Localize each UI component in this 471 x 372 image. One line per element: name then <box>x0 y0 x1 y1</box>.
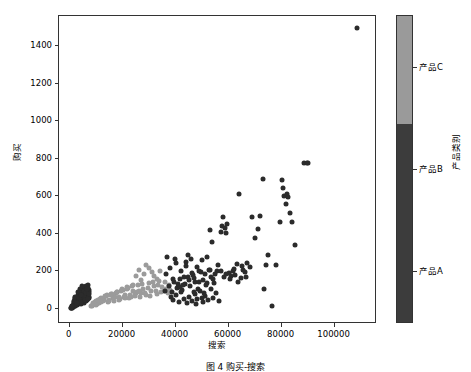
scatter-point <box>200 258 205 263</box>
colorbar-tick-label: 产品A <box>419 267 443 276</box>
x-tick-label: 80000 <box>251 330 311 339</box>
x-axis-label: 搜索 <box>58 341 376 350</box>
scatter-point <box>136 267 141 272</box>
scatter-point <box>192 275 197 280</box>
scatter-point <box>355 26 360 31</box>
scatter-point <box>238 276 243 281</box>
scatter-point <box>173 257 178 262</box>
y-tick-mark <box>55 83 59 84</box>
scatter-point <box>213 271 218 276</box>
scatter-point <box>247 265 252 270</box>
scatter-point <box>261 177 266 182</box>
scatter-point <box>243 274 248 279</box>
scatter-point <box>263 262 268 267</box>
scatter-point <box>166 283 171 288</box>
scatter-point <box>283 201 288 206</box>
scatter-point <box>199 296 204 301</box>
scatter-point <box>174 293 179 298</box>
y-tick-label: 600 <box>2 191 52 200</box>
scatter-point <box>86 296 91 301</box>
scatter-point <box>149 289 154 294</box>
scatter-point <box>225 222 230 227</box>
scatter-point <box>122 295 127 300</box>
y-tick-mark <box>55 308 59 309</box>
scatter-point <box>148 293 153 298</box>
scatter-point <box>219 268 224 273</box>
scatter-point <box>186 278 191 283</box>
scatter-point <box>74 301 79 306</box>
scatter-point <box>184 301 189 306</box>
colorbar-segment <box>397 16 412 124</box>
scatter-point <box>250 214 255 219</box>
scatter-point <box>204 254 209 259</box>
scatter-point <box>171 298 176 303</box>
scatter-point <box>253 235 258 240</box>
y-tick-label: 1200 <box>2 79 52 88</box>
y-tick-label: 400 <box>2 229 52 238</box>
x-tick-label: 60000 <box>198 330 258 339</box>
scatter-point <box>205 281 210 286</box>
scatter-point <box>227 277 232 282</box>
scatter-point <box>210 276 215 281</box>
scatter-point <box>306 160 311 165</box>
scatter-point <box>191 289 196 294</box>
scatter-point <box>234 262 239 267</box>
scatter-point <box>258 214 263 219</box>
colorbar-tick-label: 产品B <box>419 165 443 174</box>
y-tick-mark <box>55 195 59 196</box>
y-tick-label: 0 <box>2 304 52 313</box>
x-tick-label: 0 <box>39 330 99 339</box>
colorbar-tick-label: 产品C <box>419 63 443 72</box>
scatter-point <box>189 270 194 275</box>
scatter-point <box>188 284 193 289</box>
y-tick-mark <box>55 120 59 121</box>
scatter-point <box>87 291 92 296</box>
scatter-point <box>262 286 267 291</box>
scatter-point <box>170 276 175 281</box>
scatter-point <box>278 220 283 225</box>
scatter-point <box>208 268 213 273</box>
scatter-point <box>157 278 162 283</box>
scatter-point <box>120 287 125 292</box>
scatter-point <box>168 266 173 271</box>
scatter-point <box>163 288 168 293</box>
scatter-point <box>133 273 138 278</box>
scatter-point <box>141 272 146 277</box>
scatter-point <box>205 297 210 302</box>
scatter-point <box>194 302 199 307</box>
y-tick-label: 1000 <box>2 116 52 125</box>
scatter-point <box>78 293 83 298</box>
scatter-point <box>144 263 149 268</box>
x-tick-mark <box>334 323 335 327</box>
figure-container: 0200400600800100012001400 购买 02000040000… <box>0 0 471 372</box>
scatter-point <box>237 191 242 196</box>
x-tick-label: 20000 <box>92 330 152 339</box>
scatter-point <box>130 288 135 293</box>
colorbar-label: 产品类别 <box>452 134 461 170</box>
scatter-point <box>197 279 202 284</box>
y-tick-mark <box>55 233 59 234</box>
x-tick-mark <box>122 323 123 327</box>
scatter-point <box>233 272 238 277</box>
scatter-point <box>270 303 275 308</box>
scatter-point <box>202 290 207 295</box>
scatter-point <box>151 284 156 289</box>
scatter-point <box>141 287 146 292</box>
scatter-point <box>109 292 114 297</box>
colorbar-tick-mark <box>413 67 417 68</box>
scatter-point <box>137 295 142 300</box>
scatter-point <box>181 283 186 288</box>
scatter-point <box>157 268 162 273</box>
scatter-point <box>202 272 207 277</box>
y-tick-mark <box>55 158 59 159</box>
scatter-point <box>279 177 284 182</box>
scatter-point <box>165 255 170 260</box>
scatter-point <box>213 291 218 296</box>
y-tick-mark <box>55 45 59 46</box>
scatter-point <box>133 294 138 299</box>
scatter-point <box>135 282 140 287</box>
x-tick-mark <box>228 323 229 327</box>
scatter-point <box>154 291 159 296</box>
scatter-point <box>287 210 292 215</box>
scatter-point <box>117 294 122 299</box>
